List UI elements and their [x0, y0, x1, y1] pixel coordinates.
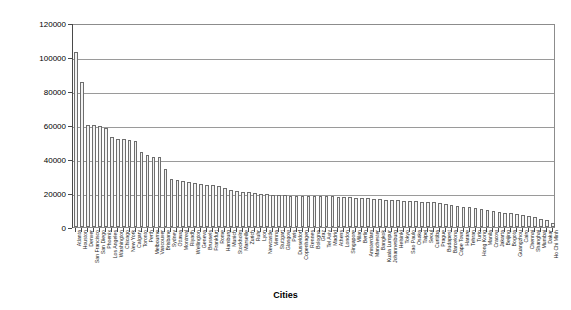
y-axis-tick-mark: [68, 92, 72, 93]
bar: [456, 206, 460, 227]
y-axis-tick-label: 20000: [18, 190, 66, 199]
bar: [140, 152, 144, 227]
y-axis-tick-mark: [68, 58, 72, 59]
bar: [277, 195, 281, 227]
bar: [348, 197, 352, 227]
bar: [551, 223, 555, 227]
bar: [217, 186, 221, 227]
bar: [474, 208, 478, 227]
bar: [509, 213, 513, 227]
bar: [444, 204, 448, 227]
bar: [98, 126, 102, 227]
y-axis-tick-label: 100000: [18, 54, 66, 63]
bar-chart: 020000400006000080000100000120000 Atlant…: [0, 0, 571, 310]
y-axis-tick-mark: [68, 126, 72, 127]
bar: [498, 212, 502, 227]
bar: [158, 157, 162, 227]
bar: [205, 185, 209, 228]
bar: [170, 179, 174, 227]
bar: [187, 182, 191, 227]
bar: [360, 198, 364, 227]
bar: [486, 210, 490, 227]
bar: [116, 139, 120, 227]
bar: [181, 181, 185, 227]
bar: [402, 201, 406, 227]
bar: [384, 200, 388, 227]
bar: [420, 202, 424, 228]
bar: [265, 194, 269, 227]
bar: [366, 198, 370, 227]
bar: [104, 128, 108, 227]
bar: [283, 195, 287, 227]
bar: [229, 190, 233, 227]
x-axis-category-labels: AtlantaHoustonDenverSan FranciscoSan Die…: [72, 230, 555, 290]
bar: [396, 200, 400, 227]
bar: [74, 52, 78, 227]
bar: [492, 211, 496, 227]
bar: [80, 82, 84, 227]
bar: [354, 198, 358, 227]
bar: [223, 188, 227, 227]
bar: [426, 202, 430, 228]
bar: [325, 196, 329, 227]
bar: [337, 197, 341, 227]
y-axis-tick-mark: [68, 24, 72, 25]
bar: [259, 194, 263, 227]
x-axis-title: Cities: [0, 290, 571, 300]
y-axis-tick-label: 0: [18, 224, 66, 233]
bar: [301, 196, 305, 227]
bar: [408, 201, 412, 227]
bar: [253, 193, 257, 227]
bar: [295, 196, 299, 227]
bar: [432, 202, 436, 227]
y-axis-tick-label: 120000: [18, 20, 66, 29]
bar: [468, 207, 472, 227]
y-axis-tick-label: 40000: [18, 156, 66, 165]
bar: [110, 137, 114, 227]
bar: [235, 191, 239, 227]
bar: [86, 125, 90, 227]
bar: [450, 205, 454, 227]
bar: [533, 217, 537, 227]
bar: [503, 213, 507, 227]
y-axis-tick-mark: [68, 194, 72, 195]
bar: [372, 199, 376, 227]
y-axis-tick-mark: [68, 228, 72, 229]
bar: [176, 180, 180, 227]
bar: [480, 209, 484, 227]
bar: [134, 141, 138, 227]
bar: [319, 196, 323, 227]
bar: [462, 207, 466, 227]
bar: [545, 220, 549, 227]
y-axis-tick-mark: [68, 160, 72, 161]
bar: [164, 169, 168, 227]
bar: [289, 196, 293, 227]
bar: [313, 196, 317, 227]
bar: [211, 185, 215, 227]
bar: [92, 125, 96, 227]
y-axis-tick-label: 60000: [18, 122, 66, 131]
bar: [414, 201, 418, 227]
bar: [390, 200, 394, 227]
y-axis-tick-label: 80000: [18, 88, 66, 97]
bar: [378, 199, 382, 227]
bar: [128, 140, 132, 227]
bar: [515, 214, 519, 227]
bars-layer: [73, 25, 554, 227]
bar: [241, 192, 245, 227]
bar: [199, 184, 203, 227]
bar: [527, 216, 531, 227]
bar: [247, 192, 251, 227]
y-axis-line: [72, 24, 73, 228]
bar: [271, 195, 275, 227]
bar: [342, 197, 346, 227]
bar: [521, 215, 525, 227]
bar: [193, 183, 197, 227]
bar: [146, 155, 150, 227]
bar: [152, 157, 156, 227]
bar: [438, 203, 442, 227]
bar: [331, 196, 335, 227]
x-axis-category-label: Ho Chi Minh: [554, 230, 559, 259]
plot-area: [72, 24, 555, 228]
bar: [122, 139, 126, 227]
